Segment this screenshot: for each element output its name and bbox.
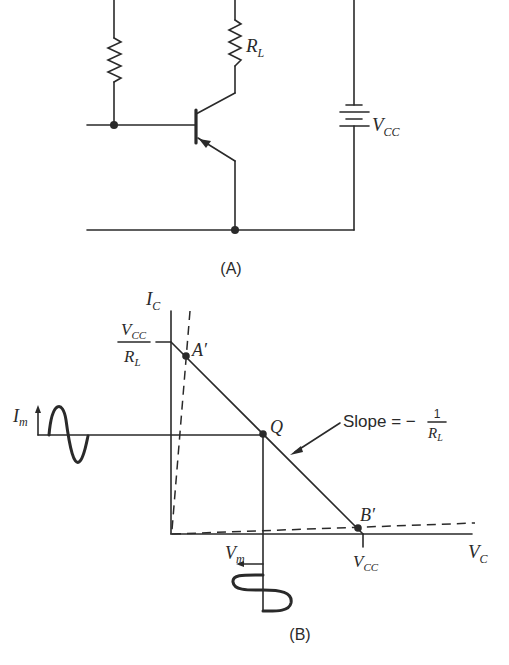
current-swing-waveform: Im [12, 405, 88, 462]
load-resistor-label: RL [245, 35, 265, 60]
svg-text:RL: RL [427, 425, 443, 443]
slope-annotation: Slope = − 1 RL [290, 407, 446, 455]
saturation-curve [172, 311, 190, 530]
svg-text:RL: RL [123, 347, 141, 368]
y-intercept-label: VCC RL [118, 320, 150, 368]
svg-text:Im: Im [12, 406, 28, 429]
emitter-junction-dot [231, 226, 239, 234]
load-line-graph: IC VC VCC RL VCC A′ Q B′ [12, 288, 489, 643]
supply-label: VCC [372, 114, 401, 139]
point-b-label: B′ [360, 505, 376, 525]
voltage-swing-waveform: Vm [225, 543, 291, 611]
svg-text:1: 1 [434, 407, 441, 421]
slope-pointer-arrow [295, 423, 340, 452]
battery-icon [340, 105, 369, 126]
npn-transistor-icon [196, 93, 235, 161]
cutoff-curve [172, 523, 475, 534]
svg-text:Vm: Vm [225, 543, 245, 566]
bias-resistor-icon [108, 38, 121, 82]
arrow-head-icon [290, 446, 303, 455]
x-intercept-label: VCC [353, 552, 379, 573]
point-b-marker [354, 524, 362, 532]
svg-text:VCC: VCC [121, 320, 147, 341]
x-axis-label: VC [468, 541, 489, 566]
svg-text:Slope = −: Slope = − [343, 412, 416, 431]
point-q-label: Q [270, 417, 283, 437]
y-axis-label: IC [145, 288, 161, 313]
point-a-marker [182, 352, 190, 360]
point-a-label: A′ [191, 340, 208, 360]
load-resistor-icon [229, 20, 241, 66]
common-emitter-circuit: RL VCC (A) [87, 0, 401, 277]
caption-b: (B) [289, 626, 310, 643]
figure-canvas: RL VCC (A) IC VC [0, 0, 509, 665]
caption-a: (A) [220, 260, 241, 277]
load-line [171, 342, 363, 534]
